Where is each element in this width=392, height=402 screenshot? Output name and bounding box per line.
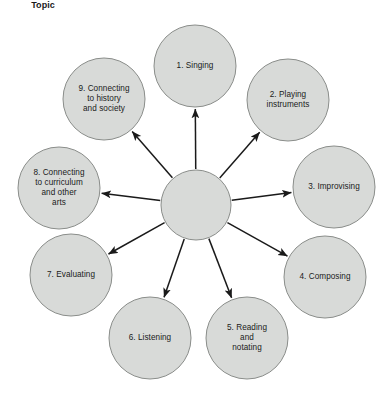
arrow-to-node-9-connecting-history <box>132 131 172 177</box>
node-4-composing[interactable] <box>284 236 366 318</box>
arrow-to-node-2-playing-instruments <box>220 132 260 178</box>
node-circles <box>18 25 375 379</box>
node-1-singing[interactable] <box>154 25 236 107</box>
node-7-evaluating[interactable] <box>30 234 112 316</box>
arrow-to-node-7-evaluating <box>109 223 165 254</box>
arrow-to-node-8-connecting-curriculum <box>102 193 161 200</box>
node-5-reading-and-notating[interactable] <box>206 297 288 379</box>
node-2-playing-instruments[interactable] <box>247 59 329 141</box>
node-9-connecting-history[interactable] <box>63 58 145 140</box>
node-8-connecting-curriculum[interactable] <box>18 147 100 229</box>
arrow-to-node-5-reading-and-notating <box>209 239 232 298</box>
arrow-to-node-6-listening <box>164 239 184 297</box>
diagram-svg <box>0 0 392 402</box>
arrow-to-node-4-composing <box>227 223 287 256</box>
arrow-to-node-3-improvising <box>232 193 292 201</box>
node-6-listening[interactable] <box>109 297 191 379</box>
hub-topic[interactable] <box>161 170 231 240</box>
node-3-improvising[interactable] <box>293 146 375 228</box>
radial-diagram: 1. Singing2. Playing instruments3. Impro… <box>0 0 392 402</box>
